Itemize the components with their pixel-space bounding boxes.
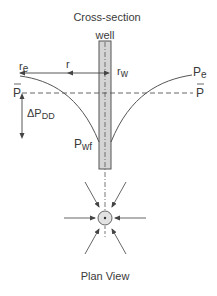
- r-label: r: [66, 58, 70, 70]
- pbar-left-label: P: [13, 86, 21, 100]
- well-label: well: [95, 29, 115, 41]
- pressure-profile-right: [111, 75, 192, 142]
- inflow-arrow: [85, 229, 99, 254]
- radial-flow-diagram: Cross-section well re r rw Pe P P ΔPDD P…: [0, 0, 217, 296]
- plan-view-title: Plan View: [81, 270, 130, 282]
- well-plan-center: [104, 217, 106, 219]
- r-arrow-icon: [67, 71, 73, 76]
- pe-label: Pe: [193, 65, 207, 80]
- pwf-label: Pwf: [74, 137, 92, 152]
- drawdown-label: ΔPDD: [27, 107, 55, 121]
- inflow-arrow: [112, 182, 126, 207]
- re-label: re: [19, 60, 29, 74]
- rw-label: rw: [117, 65, 129, 79]
- inflow-arrow: [112, 229, 126, 254]
- cross-section-title: Cross-section: [73, 11, 140, 23]
- inflow-arrow: [85, 182, 99, 207]
- pbar-right-label: P: [196, 86, 204, 100]
- drawdown-arrow-bottom-icon: [20, 133, 25, 139]
